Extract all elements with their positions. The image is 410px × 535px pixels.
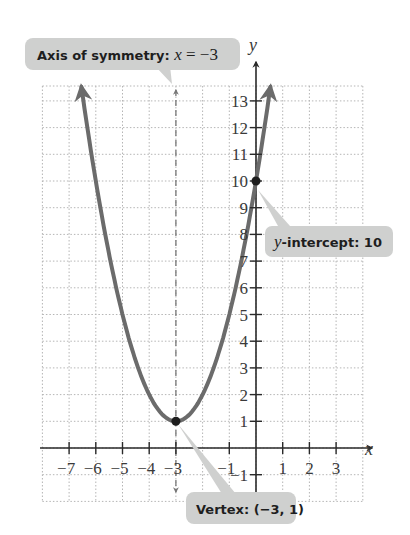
yint-callout-var: y	[272, 232, 282, 251]
y-intercept-callout: y-intercept: 10	[258, 190, 393, 257]
y-tick-label: 12	[231, 119, 248, 138]
x-tick-label: −4	[137, 459, 156, 478]
vertex-callout-text: Vertex: (−3, 1)	[196, 502, 304, 517]
x-tick-label: −3	[164, 459, 182, 478]
parabola-chart: −7−6−5−4−3−1123−112345678910111213 Axis …	[0, 0, 410, 535]
y-tick-label: 11	[232, 145, 248, 164]
y-tick-label: 6	[240, 279, 249, 298]
y-tick-label: 7	[240, 252, 249, 271]
x-axis-label: x	[364, 439, 373, 459]
x-tick-label: 3	[332, 459, 341, 478]
axis-callout-prefix: Axis of symmetry:	[37, 48, 174, 63]
svg-text:y-intercept: 10: y-intercept: 10	[272, 232, 382, 251]
y-tick-label: 3	[240, 359, 249, 378]
y-tick-label: 5	[240, 306, 249, 325]
axis-of-symmetry-callout: Axis of symmetry: x = −3	[25, 38, 240, 84]
y-tick-label: 1	[240, 412, 249, 431]
y-tick-label: −1	[230, 466, 248, 485]
x-tick-label: −5	[110, 459, 128, 478]
x-tick-label: −7	[57, 459, 76, 478]
x-tick-label: 2	[305, 459, 314, 478]
yint-callout-suffix: -intercept: 10	[282, 235, 382, 250]
y-axis-label: y	[247, 35, 257, 55]
y-tick-label: 2	[240, 386, 249, 405]
axis-callout-suffix: = −3	[182, 45, 218, 64]
y-tick-label: 13	[231, 92, 248, 111]
y-tick-label: 9	[240, 199, 249, 218]
y-intercept-point	[252, 177, 261, 186]
tick-labels: −7−6−5−4−3−1123−112345678910111213	[57, 92, 340, 485]
svg-text:Axis of symmetry: x = −3: Axis of symmetry: x = −3	[37, 45, 218, 64]
y-tick-label: 10	[231, 172, 248, 191]
x-tick-label: 1	[278, 459, 287, 478]
y-tick-label: 8	[240, 225, 249, 244]
vertex-point	[171, 417, 180, 426]
x-tick-label: −6	[84, 459, 102, 478]
y-tick-label: 4	[240, 332, 249, 351]
